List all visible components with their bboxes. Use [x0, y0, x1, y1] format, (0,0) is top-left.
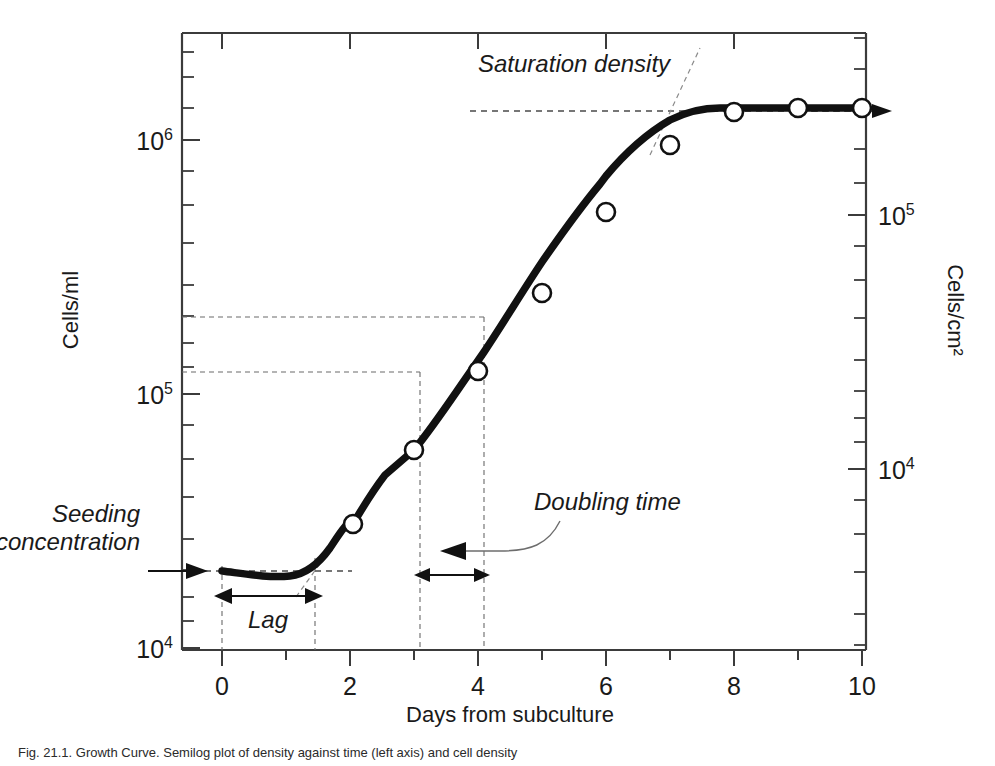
seeding-concentration-label-line2: concentration: [0, 528, 140, 555]
right-axis-title: Cells/cm²: [943, 264, 968, 356]
plot-frame: [182, 33, 866, 650]
growth-curve-chart: 106 105 104 105 104 0 2 4 6 8 10 Cells/m…: [0, 0, 995, 766]
seeding-concentration-label-line1: Seeding: [52, 500, 141, 527]
left-axis-ticks: [182, 52, 200, 648]
figure-caption: Fig. 21.1. Growth Curve. Semilog plot of…: [18, 744, 978, 762]
x-tick-label-8: 8: [727, 672, 741, 700]
x-axis-title: Days from subculture: [406, 702, 614, 727]
data-point: [344, 515, 362, 533]
saturation-arrow-head: [872, 104, 892, 118]
doubling-time-span-arrow: [414, 568, 490, 582]
x-axis-ticks: [222, 650, 862, 666]
doubling-time-leader: [440, 521, 560, 560]
lag-span-arrow: [214, 588, 323, 604]
data-point: [597, 203, 615, 221]
seeding-arrow-head: [186, 563, 208, 579]
data-point-markers: [344, 99, 871, 533]
left-tick-label-1e6: 106: [136, 126, 173, 155]
right-axis-ticks: [848, 38, 866, 645]
data-point: [789, 99, 807, 117]
x-tick-label-2: 2: [343, 672, 357, 700]
x-tick-label-4: 4: [471, 672, 485, 700]
data-point: [405, 441, 423, 459]
x-tick-label-0: 0: [215, 672, 229, 700]
figure-caption-container: Fig. 21.1. Growth Curve. Semilog plot of…: [18, 744, 978, 766]
data-point: [533, 284, 551, 302]
right-tick-label-1e5: 105: [878, 201, 915, 230]
guide-lines: [148, 104, 892, 650]
lag-label: Lag: [248, 606, 289, 633]
left-axis-title: Cells/ml: [58, 271, 83, 349]
left-tick-label-1e4: 104: [136, 634, 173, 663]
doubling-time-arrow-head: [440, 542, 466, 560]
data-point: [725, 103, 743, 121]
growth-curve-figure: 106 105 104 105 104 0 2 4 6 8 10 Cells/m…: [0, 0, 995, 766]
top-axis-ticks: [222, 33, 734, 49]
doubling-time-label: Doubling time: [534, 488, 681, 515]
data-point: [469, 362, 487, 380]
x-tick-label-10: 10: [848, 672, 876, 700]
right-tick-label-1e4: 104: [878, 455, 915, 484]
data-point: [853, 99, 871, 117]
x-tick-label-6: 6: [599, 672, 613, 700]
left-tick-label-1e5: 105: [136, 380, 173, 409]
data-point: [661, 136, 679, 154]
saturation-density-label: Saturation density: [478, 50, 672, 77]
